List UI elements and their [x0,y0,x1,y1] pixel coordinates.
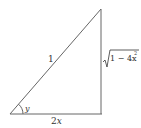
hypotenuse-label: 1 [48,54,54,64]
height-label: 1 − 4x 2 [103,50,139,67]
height-radicand: 1 − 4x [110,54,137,63]
angle-arc [19,104,24,114]
height-exponent: 2 [134,50,137,56]
triangle-diagram: 1 y 2x 1 − 4x 2 [0,0,141,128]
angle-label: y [24,104,30,113]
hypotenuse [10,9,101,114]
base-label: 2x [51,116,62,126]
